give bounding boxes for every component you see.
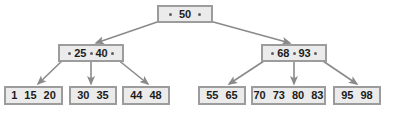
btree-key: 44 (127, 90, 146, 101)
btree-node-leaf-5: 70738083 (251, 86, 326, 105)
btree-key: 65 (222, 90, 241, 101)
btree-key: 70 (250, 90, 269, 101)
node-contents: 50 (169, 9, 201, 20)
node-contents: 6893 (271, 48, 317, 59)
btree-node-root: 50 (157, 5, 213, 23)
btree-key: 20 (40, 90, 59, 101)
pointer-dot-icon (198, 13, 201, 16)
btree-key: 50 (172, 9, 198, 20)
edge-left-leaf3 (117, 59, 148, 84)
node-contents: 5565 (203, 90, 242, 101)
node-contents: 2540 (68, 48, 114, 59)
btree-key: 15 (21, 90, 40, 101)
node-contents: 70738083 (250, 90, 327, 101)
btree-key: 95 (338, 90, 357, 101)
btree-key: 35 (93, 90, 112, 101)
btree-node-leaf-3: 4448 (122, 86, 170, 105)
btree-key: 30 (74, 90, 93, 101)
edge-root-right (206, 20, 290, 43)
btree-node-internal-right: 6893 (261, 44, 327, 62)
btree-node-leaf-6: 9598 (333, 86, 381, 105)
btree-key: 25 (71, 48, 89, 59)
btree-key: 73 (269, 90, 288, 101)
btree-key: 1 (8, 90, 21, 101)
node-contents: 9598 (338, 90, 377, 101)
btree-key: 93 (296, 48, 314, 59)
btree-node-leaf-2: 3035 (69, 86, 117, 105)
edge-left-leaf1 (38, 59, 64, 84)
btree-key: 98 (357, 90, 376, 101)
btree-key: 48 (146, 90, 165, 101)
btree-key: 80 (289, 90, 308, 101)
btree-node-leaf-4: 5565 (198, 86, 246, 105)
pointer-dot-icon (314, 52, 317, 55)
node-contents: 3035 (74, 90, 113, 101)
btree-node-leaf-1: 11520 (4, 86, 63, 105)
btree-node-internal-left: 2540 (58, 44, 124, 62)
btree-key: 55 (203, 90, 222, 101)
btree-key: 68 (274, 48, 292, 59)
edge-right-leaf6 (320, 59, 357, 84)
btree-key: 83 (308, 90, 327, 101)
edge-right-leaf4 (229, 59, 267, 84)
btree-diagram: 502540689311520303544485565707380839598 (0, 0, 397, 114)
node-contents: 4448 (127, 90, 166, 101)
node-contents: 11520 (8, 90, 60, 101)
edge-root-left (96, 20, 163, 43)
pointer-dot-icon (111, 52, 114, 55)
btree-key: 40 (93, 48, 111, 59)
